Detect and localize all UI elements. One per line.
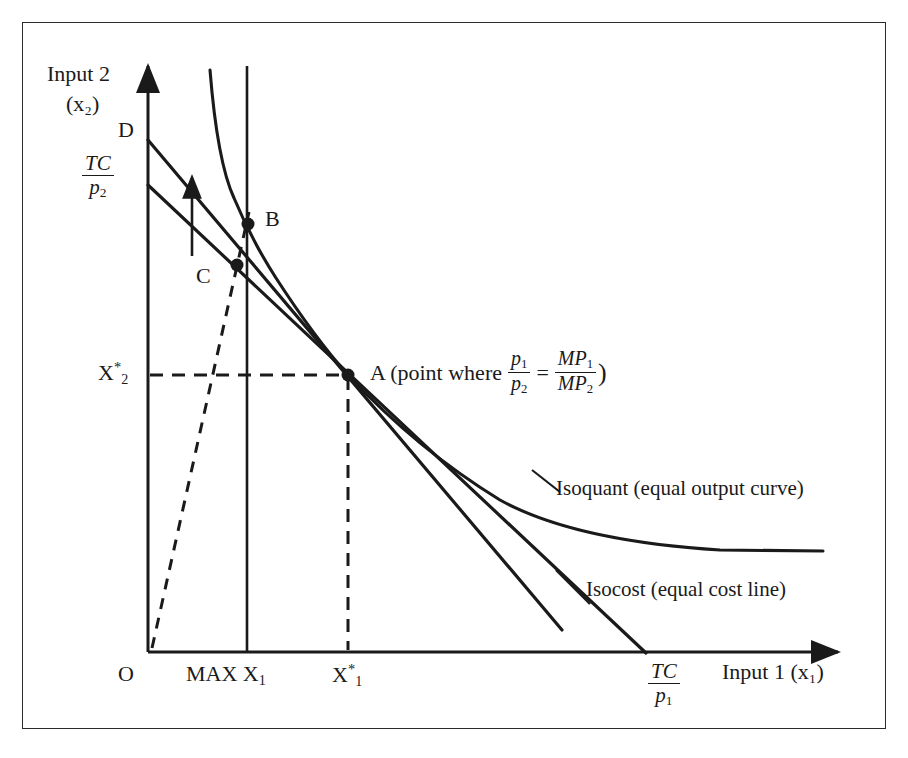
mp-ratio-fraction: MP1 MP2 — [555, 348, 596, 397]
tc-over-p1-denominator: p1 — [648, 684, 680, 709]
x2-star-label: X*2 — [98, 360, 128, 386]
tc-over-p1-numerator: TC — [648, 660, 680, 684]
origin-label: O — [118, 662, 134, 685]
max-x1-label: MAX X1 — [186, 662, 266, 687]
cropped-header-text — [280, 0, 620, 10]
point-a-annotation-suffix: ) — [598, 359, 607, 386]
point-b-label: B — [265, 207, 280, 230]
tc-over-p2-label: TC p2 — [82, 152, 114, 201]
tc-over-p1-label: TC p1 — [648, 660, 680, 709]
y-axis-label-line2: (x₂) — [66, 92, 99, 115]
isocost-label: Isocost (equal cost line) — [586, 578, 786, 600]
point-a-annotation-prefix: A (point where — [370, 361, 502, 384]
figure-page: Input 2 (x₂) D TC p2 X*2 B C A (point wh… — [0, 0, 908, 758]
tc-over-p2-denominator: p2 — [82, 176, 114, 201]
point-a-annotation: A (point where p1 p2 = MP1 MP2 ) — [370, 348, 607, 397]
equals-sign: = — [532, 361, 552, 384]
y-axis-label-line1: Input 2 — [47, 62, 110, 85]
price-ratio-fraction: p1 p2 — [508, 348, 530, 397]
x1-star-label: X*1 — [332, 662, 362, 688]
x-axis-label: Input 1 (x₁) — [722, 660, 824, 683]
isoquant-label: Isoquant (equal output curve) — [556, 477, 804, 499]
point-d-label: D — [118, 118, 134, 141]
tc-over-p2-numerator: TC — [82, 152, 114, 176]
point-c-label: C — [196, 264, 211, 287]
